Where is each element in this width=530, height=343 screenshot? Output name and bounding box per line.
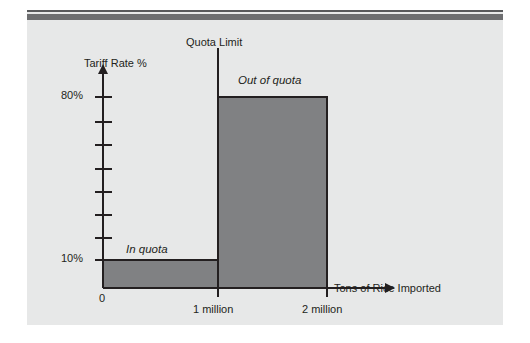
out-of-quota-label: Out of quota: [238, 74, 301, 87]
x-tick-label-0: 0: [99, 292, 105, 305]
y-tick-3: [95, 214, 112, 216]
quota-limit-line: [217, 48, 219, 288]
y-tick-label-10: 10%: [61, 252, 83, 265]
x-axis-title: Tons of Rice Imported: [334, 282, 441, 295]
y-tick-4: [95, 191, 112, 193]
x-tick-label-2-million: 2 million: [302, 303, 342, 316]
figure-root: Tariff Rate % Quota Limit Out of quota I…: [0, 0, 530, 343]
in-quota-label: In quota: [126, 243, 168, 256]
bar-in-quota: [103, 259, 218, 288]
y-tick-7: [95, 121, 112, 123]
y-tick-label-80: 80%: [61, 89, 83, 102]
x-tick-label-1-million: 1 million: [193, 303, 233, 316]
quota-limit-label: Quota Limit: [186, 36, 242, 49]
y-tick-10: [95, 259, 112, 261]
top-rule-thick-bar: [27, 14, 503, 20]
x-tick-2-million: [326, 288, 328, 297]
y-axis-title: Tariff Rate %: [84, 57, 147, 70]
y-tick-2: [95, 237, 112, 239]
x-tick-1-million: [217, 288, 219, 297]
y-tick-5: [95, 168, 112, 170]
y-tick-6: [95, 144, 112, 146]
y-axis-line: [102, 72, 104, 288]
bar-out-of-quota: [218, 96, 328, 288]
y-tick-80: [95, 96, 112, 98]
